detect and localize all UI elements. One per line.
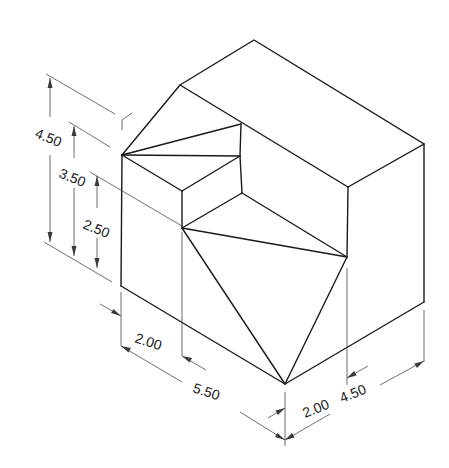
object-lines	[121, 40, 424, 384]
side-dimensions: 2.00 4.50	[268, 268, 424, 440]
isometric-drawing: 4.50 3.50 2.50 2.00 5.50	[0, 0, 449, 468]
dim-front-length: 5.50	[191, 380, 222, 404]
front-dimensions: 2.00 5.50	[100, 232, 285, 446]
dim-side-step-depth: 2.00	[300, 396, 331, 421]
dim-height-total: 4.50	[33, 125, 64, 150]
dim-height-mid: 3.50	[57, 165, 88, 190]
dim-front-step-width: 2.00	[133, 330, 164, 354]
dim-height-low: 2.50	[81, 216, 112, 241]
dim-side-depth: 4.50	[337, 381, 368, 406]
